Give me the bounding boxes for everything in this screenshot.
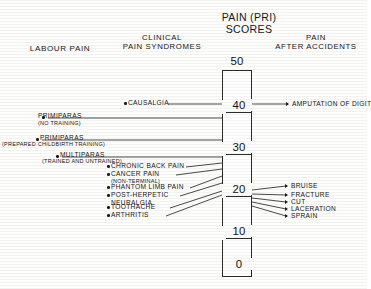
- label-primiparas-no-training-text: PRIMIPARAS: [38, 112, 82, 119]
- leader-cancer-pain: [176, 169, 222, 175]
- arrowhead-amputation-of-digit: [286, 102, 289, 106]
- label-fracture-text: FRACTURE: [291, 191, 330, 198]
- label-cancer-pain-text: CANCER PAIN: [111, 170, 159, 177]
- label-arthritis: ARTHRITIS: [111, 211, 149, 219]
- label-bruise: BRUISE: [291, 182, 318, 190]
- label-amputation-of-digit-text: AMPUTATION OF DIGIT: [292, 100, 371, 107]
- leader-cut: [252, 198, 286, 202]
- label-chronic-back-pain-text: CHRONIC BACK PAIN: [111, 162, 184, 169]
- arrowhead-bruise: [285, 184, 288, 188]
- leader-bruise: [252, 186, 286, 190]
- label-sprain: SPRAIN: [291, 212, 318, 220]
- label-arthritis-text: ARTHRITIS: [111, 211, 149, 218]
- label-toothache: TOOTHACHE: [111, 203, 155, 211]
- label-phantom-limb-pain: PHANTOM LIMB PAIN: [111, 183, 184, 191]
- bullet-post-herpetic-neuralgia: [107, 194, 110, 197]
- bullet-arthritis: [107, 214, 110, 217]
- bullet-cancer-pain: [107, 173, 110, 176]
- arrowhead-sprain: [285, 214, 288, 218]
- label-causalgia: CAUSALGIA: [128, 99, 169, 107]
- label-primiparas-prepared-childbirth: PRIMIPARAS (PREPARED CHILDBIRTH TRAINING…: [40, 134, 84, 142]
- bullet-chronic-back-pain: [107, 165, 110, 168]
- label-chronic-back-pain: CHRONIC BACK PAIN: [111, 162, 184, 170]
- leader-toothache: [170, 191, 222, 208]
- label-primiparas-no-training-sub: (NO TRAINING): [38, 120, 92, 126]
- label-sprain-text: SPRAIN: [291, 212, 318, 219]
- bullet-causalgia: [124, 102, 127, 105]
- bullet-toothache: [107, 206, 110, 209]
- label-primiparas-trained-sub: (PREPARED CHILDBIRTH TRAINING): [2, 141, 105, 147]
- label-phantom-limb-pain-text: PHANTOM LIMB PAIN: [111, 183, 184, 190]
- bullet-phantom-limb-pain: [107, 186, 110, 189]
- leader-laceration: [252, 202, 286, 209]
- label-multiparas-text: MULTIPARAS: [60, 151, 105, 158]
- label-post-herpetic-text: POST-HERPETIC: [111, 191, 169, 198]
- leader-chronic-back-pain: [186, 163, 222, 167]
- label-multiparas: MULTIPARAS (TRAINED AND UNTRAINED): [60, 151, 105, 159]
- label-bruise-text: BRUISE: [291, 182, 318, 189]
- label-primiparas-trained-text: PRIMIPARAS: [40, 134, 84, 141]
- leader-post-herpetic-neuralgia: [180, 183, 222, 196]
- label-primiparas-no-training: PRIMIPARAS (NO TRAINING): [0, 112, 92, 126]
- label-amputation-of-digit: AMPUTATION OF DIGIT: [292, 100, 371, 108]
- label-toothache-text: TOOTHACHE: [111, 203, 155, 210]
- arrowhead-laceration: [285, 207, 288, 211]
- label-causalgia-text: CAUSALGIA: [128, 99, 169, 106]
- arrowhead-cut: [285, 200, 288, 204]
- leader-phantom-limb-pain: [190, 176, 222, 188]
- arrowhead-fracture: [285, 193, 288, 197]
- label-multiparas-sub: (TRAINED AND UNTRAINED): [42, 158, 122, 164]
- label-cut-text: CUT: [291, 198, 306, 205]
- leader-fracture: [252, 194, 286, 195]
- leader-arthritis: [166, 195, 222, 216]
- label-laceration-text: LACERATION: [291, 205, 336, 212]
- leader-sprain: [252, 206, 286, 216]
